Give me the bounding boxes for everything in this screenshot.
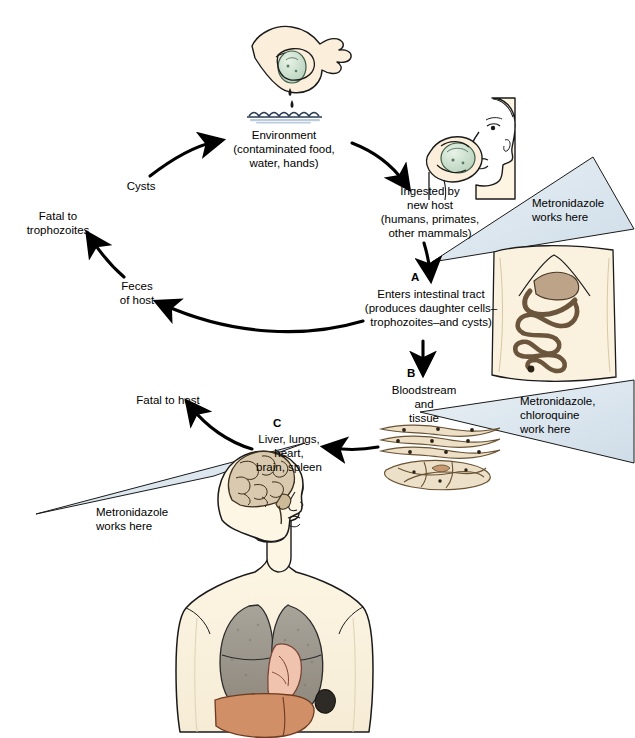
label-feces-of-host: Feces of host bbox=[99, 279, 175, 307]
callout-intestinal-label: Metronidazole works here bbox=[532, 196, 634, 224]
diagram-canvas: Environment (contaminated food, water, h… bbox=[0, 0, 635, 738]
label-fatal-to-trophozoites: Fatal to trophozoites bbox=[8, 209, 108, 237]
step-letter-a: A bbox=[411, 271, 419, 283]
label-bloodstream-and-tissue: Bloodstream and tissue bbox=[370, 383, 478, 425]
arrow-intestinal-to-feces bbox=[164, 305, 363, 332]
arrow-ingested-to-intestinal bbox=[424, 243, 430, 272]
hand-dropping-cyst-illustration bbox=[247, 26, 351, 123]
label-ingested: Ingested by new host (humans, primates, … bbox=[357, 184, 503, 240]
label-enters-intestinal-tract: Enters intestinal tract (produces daught… bbox=[351, 287, 511, 329]
diagram-graphics bbox=[0, 0, 635, 738]
label-cysts: Cysts bbox=[110, 179, 172, 193]
arrow-feces-to-fatal-trophozoites bbox=[92, 240, 124, 277]
torso-organs-illustration bbox=[176, 451, 373, 737]
label-environment: Environment (contaminated food, water, h… bbox=[204, 128, 364, 170]
tissue-cells-illustration bbox=[381, 425, 500, 490]
step-letter-b: B bbox=[407, 367, 415, 379]
callout-bloodstream-label: Metronidazole, chloroquine work here bbox=[520, 394, 630, 436]
step-letter-c: C bbox=[273, 417, 281, 429]
label-organs: Liver, lungs, heart, brain, spleen bbox=[225, 432, 353, 474]
water-line bbox=[249, 113, 319, 117]
label-fatal-to-host: Fatal to host bbox=[118, 393, 218, 407]
callout-organs-label: Metronidazole works here bbox=[96, 505, 206, 533]
